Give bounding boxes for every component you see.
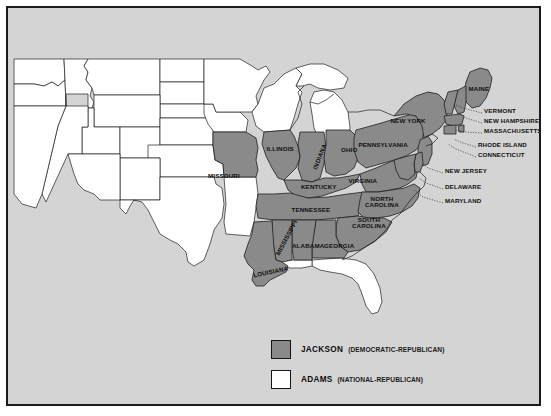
- state-southdakota: [160, 82, 204, 104]
- state-label-pennsylvania: PENNSYLVANIA: [359, 141, 408, 148]
- callout-label-new-hampshire: NEW HAMPSHIRE: [484, 117, 539, 124]
- callout-label-vermont: VERMONT: [484, 107, 516, 114]
- state-newmexico: [120, 158, 160, 200]
- callout-label-new-jersey: NEW JERSEY: [445, 167, 487, 174]
- state-label-maine: MAINE: [469, 85, 490, 92]
- state-label-tennessee: TENNESSEE: [292, 206, 331, 213]
- state-label-kentucky: KENTUCKY: [301, 183, 337, 190]
- state-montana: [84, 59, 160, 95]
- state-label-virginia: VIRGINIA: [349, 177, 378, 184]
- legend-row-adams: ADAMS(NATIONAL-REPUBLICAN): [271, 368, 423, 390]
- callout-label-rhode-island: RHODE ISLAND: [478, 141, 527, 148]
- legend-swatch-adams: [271, 370, 291, 389]
- state-massachusetts: [444, 114, 464, 126]
- state-washington: [14, 59, 65, 86]
- state-label-missouri: MISSOURI: [208, 172, 240, 179]
- legend-candidate-name: JACKSON: [301, 345, 343, 354]
- election-map-figure: MISSOURIILLINOISINDIANAOHIOKENTUCKYTENNE…: [0, 0, 551, 416]
- state-label-north-carolina: NORTHCAROLINA: [365, 196, 399, 209]
- callout-label-maryland: MARYLAND: [445, 197, 481, 204]
- state-label-alabama: ALABAMA: [292, 242, 324, 249]
- map-plate: MISSOURIILLINOISINDIANAOHIOKENTUCKYTENNE…: [8, 8, 539, 404]
- map-legend: JACKSON(DEMOCRATIC-REPUBLICAN)ADAMS(NATI…: [271, 338, 521, 400]
- state-label-illinois: ILLINOIS: [267, 145, 294, 152]
- legend-row-jackson: JACKSON(DEMOCRATIC-REPUBLICAN): [271, 338, 444, 360]
- legend-swatch-jackson: [271, 340, 291, 359]
- callout-label-delaware: DELAWARE: [445, 183, 481, 190]
- legend-party-name: (NATIONAL-REPUBLICAN): [338, 376, 424, 383]
- state-label-south-carolina: SOUTHCAROLINA: [352, 217, 386, 230]
- state-kansas: [160, 118, 213, 145]
- map-frame: MISSOURIILLINOISINDIANAOHIOKENTUCKYTENNE…: [6, 6, 541, 406]
- callout-label-massachusetts: MASSACHUSETTS: [484, 127, 539, 134]
- legend-candidate-name: ADAMS: [301, 375, 333, 384]
- state-label-georgia: GEORGIA: [324, 242, 354, 249]
- state-wyoming: [94, 95, 160, 127]
- state-connecticut: [444, 125, 456, 134]
- state-label-new-york: NEW YORK: [391, 117, 426, 124]
- callout-label-connecticut: CONNECTICUT: [478, 151, 525, 158]
- legend-party-name: (DEMOCRATIC-REPUBLICAN): [348, 346, 444, 353]
- state-label-ohio: OHIO: [341, 146, 357, 153]
- state-northdakota: [160, 59, 204, 82]
